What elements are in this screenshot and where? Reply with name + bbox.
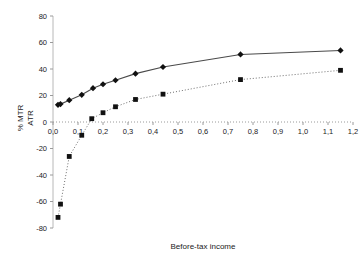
- data-point-marker: [132, 71, 138, 77]
- series-line-mtr: [58, 50, 341, 104]
- x-axis-ticks: 0,00,10,20,30,40,50,60,70,80,91,01,11,2: [48, 122, 358, 136]
- data-point-marker: [56, 215, 61, 220]
- x-axis: 0,00,10,20,30,40,50,60,70,80,91,01,11,2: [48, 122, 358, 136]
- data-point-marker: [90, 85, 96, 91]
- y-tick-label: -80: [36, 224, 47, 233]
- data-point-marker: [133, 97, 138, 102]
- y-axis-title-line-2: ATR: [26, 110, 35, 126]
- data-point-marker: [67, 154, 72, 159]
- x-tick-label: 0,3: [123, 127, 133, 136]
- data-point-marker: [237, 51, 243, 57]
- y-tick-label: 0: [43, 118, 47, 127]
- x-axis-title: Before-tax income: [171, 242, 236, 251]
- x-tick-label: 0,5: [173, 127, 183, 136]
- data-point-marker: [89, 116, 94, 121]
- y-tick-label: 20: [39, 91, 47, 100]
- data-point-marker: [101, 110, 106, 115]
- chart-container: 806040200-20-40-60-80 0,00,10,20,30,40,5…: [0, 0, 364, 264]
- x-tick-label: 1,1: [323, 127, 333, 136]
- series-mtr: [55, 47, 344, 108]
- data-point-marker: [338, 68, 343, 73]
- data-point-marker: [66, 97, 72, 103]
- x-tick-label: 0,4: [148, 127, 158, 136]
- x-tick-label: 0,0: [48, 127, 58, 136]
- y-tick-label: -40: [36, 171, 47, 180]
- y-tick-label: 40: [39, 65, 47, 74]
- x-tick-label: 0,9: [273, 127, 283, 136]
- data-point-marker: [337, 47, 343, 53]
- x-tick-label: 1,0: [298, 127, 308, 136]
- data-point-marker: [113, 104, 118, 109]
- x-tick-label: 1,2: [348, 127, 358, 136]
- x-tick-label: 0,2: [98, 127, 108, 136]
- y-tick-label: -20: [36, 144, 47, 153]
- series-atr: [56, 68, 343, 220]
- data-point-marker: [58, 202, 63, 207]
- data-point-marker: [100, 81, 106, 87]
- data-point-marker: [160, 64, 166, 70]
- y-tick-label: 60: [39, 38, 47, 47]
- y-axis-ticks: 806040200-20-40-60-80: [36, 12, 53, 233]
- data-point-marker: [238, 77, 243, 82]
- y-axis: 806040200-20-40-60-80: [36, 12, 53, 233]
- data-point-marker: [112, 77, 118, 83]
- x-tick-label: 0,6: [198, 127, 208, 136]
- series-line-atr: [58, 70, 341, 217]
- y-axis-title-line-1: % MTR: [16, 104, 25, 131]
- data-point-marker: [79, 92, 85, 98]
- x-tick-label: 0,7: [223, 127, 233, 136]
- y-tick-label: -60: [36, 197, 47, 206]
- data-point-marker: [161, 92, 166, 97]
- y-tick-label: 80: [39, 12, 47, 21]
- data-point-marker: [79, 133, 84, 138]
- line-chart: 806040200-20-40-60-80 0,00,10,20,30,40,5…: [0, 0, 364, 264]
- x-tick-label: 0,8: [248, 127, 258, 136]
